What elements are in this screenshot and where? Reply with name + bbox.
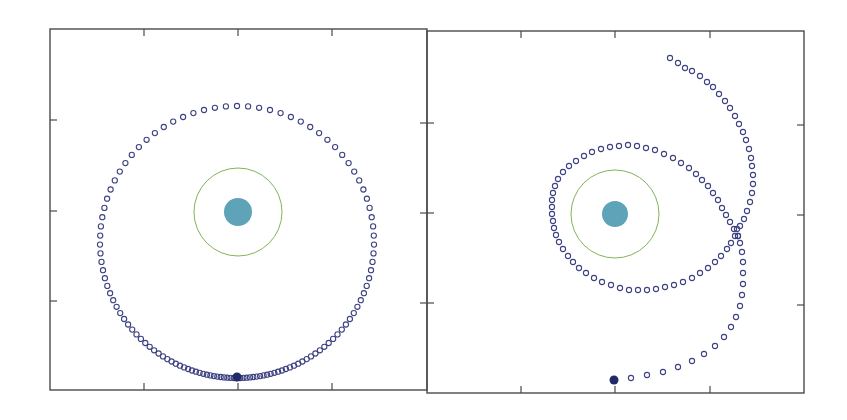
trajectory-marker	[576, 265, 581, 270]
trajectory-marker	[549, 211, 554, 216]
trajectory-marker	[108, 291, 113, 296]
trajectory-marker	[118, 311, 123, 316]
trajectory-marker	[686, 165, 691, 170]
trajectory-marker	[364, 196, 369, 201]
trajectory-marker	[122, 316, 127, 321]
trajectory-marker	[100, 268, 105, 273]
trajectory-marker	[721, 334, 726, 339]
trajectory-marker	[699, 177, 704, 182]
trajectory-marker	[340, 152, 345, 157]
trajectory-marker	[607, 144, 612, 149]
trajectory-marker	[749, 190, 754, 195]
trajectory-marker	[737, 223, 742, 228]
trajectory-marker	[143, 340, 148, 345]
trajectory-marker	[555, 176, 560, 181]
trajectory-marker	[339, 327, 344, 332]
trajectory-marker	[191, 111, 196, 116]
trajectory-marker	[583, 270, 588, 275]
trajectory-marker	[671, 282, 676, 287]
trajectory-marker	[739, 249, 744, 254]
trajectory-marker	[581, 153, 586, 158]
trajectory-marker	[97, 242, 102, 247]
trajectory-marker	[333, 145, 338, 150]
trajectory-marker	[591, 275, 596, 280]
trajectory-marker	[556, 239, 561, 244]
trajectory-marker	[728, 240, 733, 245]
trajectory-marker	[117, 169, 122, 174]
trajectory-marker	[689, 358, 694, 363]
trajectory-marker	[308, 124, 313, 129]
trajectory-marker	[718, 253, 723, 258]
trajectory-marker	[134, 332, 139, 337]
trajectory-marker	[634, 143, 639, 148]
trajectory-marker	[99, 259, 104, 264]
trajectory-marker	[152, 131, 157, 136]
trajectory-marker	[325, 137, 330, 142]
trajectory-marker	[267, 107, 272, 112]
trajectory-marker	[722, 98, 727, 103]
trajectory-marker	[351, 311, 356, 316]
trajectory-marker	[234, 103, 239, 108]
trajectory-marker	[108, 187, 113, 192]
panel-right	[427, 31, 804, 393]
trajectory-marker	[589, 149, 594, 154]
trajectory-marker	[560, 246, 565, 251]
trajectory-marker	[727, 105, 732, 110]
trajectory-marker	[608, 282, 613, 287]
trajectory-marker	[678, 160, 683, 165]
trajectory-marker	[138, 336, 143, 341]
trajectory-marker	[701, 351, 706, 356]
trajectory-marker	[361, 187, 366, 192]
trajectory-marker	[643, 145, 648, 150]
trajectory-marker	[346, 161, 351, 166]
trajectory-marker	[552, 183, 557, 188]
trajectory-marker	[697, 270, 702, 275]
trajectory-marker	[736, 121, 741, 126]
trajectory-marker	[644, 287, 649, 292]
trajectory-marker	[712, 259, 717, 264]
trajectory-marker	[553, 232, 558, 237]
trajectory-marker	[98, 224, 103, 229]
trajectory-marker	[358, 298, 363, 303]
trajectory-marker	[628, 375, 633, 380]
trajectory-marker	[653, 286, 658, 291]
trajectory-marker	[181, 114, 186, 119]
trajectory-marker	[660, 369, 665, 374]
trajectory-marker	[662, 284, 667, 289]
trajectory-marker	[288, 114, 293, 119]
trajectory-marker	[322, 344, 327, 349]
trajectory-marker	[212, 105, 217, 110]
trajectory-marker	[689, 68, 694, 73]
trajectory-marker	[343, 322, 348, 327]
trajectory-marker	[136, 145, 141, 150]
trajectory-marker	[746, 146, 751, 151]
trajectory-marker	[317, 131, 322, 136]
trajectory-marker	[98, 233, 103, 238]
trajectory-marker	[616, 143, 621, 148]
trajectory-marker	[331, 336, 336, 341]
central-body-icon	[602, 201, 628, 227]
trajectory-marker	[737, 240, 742, 245]
trajectory-marker	[748, 155, 753, 160]
trajectory-marker	[364, 283, 369, 288]
trajectory-marker	[369, 215, 374, 220]
trajectory-marker	[335, 332, 340, 337]
trajectory-marker	[112, 178, 117, 183]
trajectory-marker	[126, 322, 131, 327]
trajectory-marker	[201, 107, 206, 112]
trajectory-marker	[129, 152, 134, 157]
trajectory-marker	[100, 215, 105, 220]
figure	[0, 0, 847, 420]
trajectory-marker	[298, 119, 303, 124]
trajectory-marker	[566, 163, 571, 168]
trajectory-marker	[570, 259, 575, 264]
trajectory-marker	[626, 287, 631, 292]
trajectory-marker	[750, 172, 755, 177]
central-body-icon	[224, 198, 252, 226]
trajectory-marker	[697, 73, 702, 78]
trajectory-marker	[733, 314, 738, 319]
trajectory-marker	[635, 287, 640, 292]
trajectory-marker	[675, 364, 680, 369]
trajectory-marker	[102, 276, 107, 281]
trajectory-marker	[144, 137, 149, 142]
